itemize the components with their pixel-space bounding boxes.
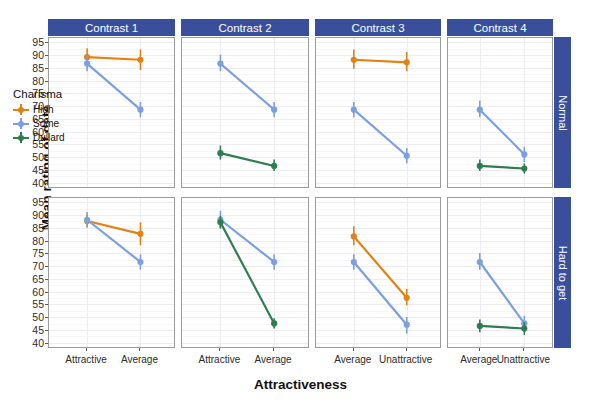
data-point xyxy=(351,57,357,63)
series-line xyxy=(354,262,407,325)
y-tick-label: 80 xyxy=(18,76,44,86)
series-layer xyxy=(316,38,441,188)
legend-items: HighSomeDullard xyxy=(13,103,65,144)
legend-key-icon xyxy=(13,117,29,130)
facet-panel xyxy=(48,197,175,348)
x-tick-mark xyxy=(523,348,524,351)
series-line xyxy=(87,220,140,262)
y-tick-label: 70 xyxy=(18,261,44,271)
x-tick-label: Average xyxy=(228,354,318,365)
panel-plot-area xyxy=(182,198,308,347)
y-tick-label: 75 xyxy=(18,248,44,258)
legend-key-icon xyxy=(13,103,29,116)
x-tick-label: Average xyxy=(94,354,184,365)
data-point xyxy=(351,259,357,265)
panel-plot-area xyxy=(316,198,440,347)
data-point xyxy=(404,322,410,328)
series-line xyxy=(480,110,525,155)
y-tick-label: 60 xyxy=(18,287,44,297)
data-point xyxy=(477,323,483,329)
facet-strip-row: Normal xyxy=(554,37,571,188)
legend-label: Some xyxy=(33,118,59,129)
data-point xyxy=(137,107,143,113)
series-line xyxy=(87,64,140,110)
facet-panel xyxy=(447,37,553,188)
data-point xyxy=(137,231,143,237)
data-point xyxy=(271,259,277,265)
legend-item: High xyxy=(13,103,65,116)
facet-panel xyxy=(315,197,441,348)
series-line xyxy=(220,222,274,323)
x-tick-label: Unattractive xyxy=(478,354,568,365)
facet-strip-row: Hard to get xyxy=(554,197,571,348)
data-point xyxy=(84,60,90,66)
series-line xyxy=(87,57,140,60)
facet-strip-column: Contrast 3 xyxy=(315,19,441,36)
data-point xyxy=(217,219,223,225)
series-layer xyxy=(448,38,553,188)
legend-key-icon xyxy=(13,131,29,144)
data-point xyxy=(477,163,483,169)
data-point xyxy=(271,163,277,169)
panel-plot-area xyxy=(182,38,308,187)
data-point xyxy=(477,107,483,113)
series-line xyxy=(354,236,407,297)
legend-item: Some xyxy=(13,117,65,130)
series-line xyxy=(220,64,274,110)
data-point xyxy=(404,153,410,159)
data-point xyxy=(521,151,527,157)
data-point xyxy=(137,57,143,63)
panel-plot-area xyxy=(49,38,174,187)
x-tick-mark xyxy=(219,348,220,351)
y-tick-label: 45 xyxy=(18,165,44,175)
y-tick-label: 95 xyxy=(18,197,44,207)
series-layer xyxy=(182,198,309,348)
y-tick-label: 65 xyxy=(18,274,44,284)
y-tick-label: 90 xyxy=(18,50,44,60)
facet-chart: Mean rating of date Attractiveness 40404… xyxy=(0,0,593,405)
y-tick-label: 85 xyxy=(18,223,44,233)
y-tick-label: 40 xyxy=(18,178,44,188)
y-tick-label: 80 xyxy=(18,236,44,246)
x-axis-title: Attractiveness xyxy=(48,377,553,392)
series-line xyxy=(220,220,274,262)
data-point xyxy=(217,150,223,156)
series-line xyxy=(480,326,525,329)
x-tick-mark xyxy=(479,348,480,351)
legend-item: Dullard xyxy=(13,131,65,144)
facet-panel xyxy=(447,197,553,348)
facet-panel xyxy=(48,37,175,188)
series-layer xyxy=(448,198,553,348)
data-point xyxy=(404,295,410,301)
y-tick-label: 90 xyxy=(18,210,44,220)
legend-title: Charisma xyxy=(13,88,65,100)
x-tick-mark xyxy=(139,348,140,351)
x-tick-mark xyxy=(273,348,274,351)
x-tick-mark xyxy=(353,348,354,351)
data-point xyxy=(84,217,90,223)
series-line xyxy=(480,166,525,169)
data-point xyxy=(477,259,483,265)
panel-plot-area xyxy=(316,38,440,187)
y-tick-label: 45 xyxy=(18,325,44,335)
series-line xyxy=(354,60,407,63)
facet-strip-column: Contrast 4 xyxy=(447,19,553,36)
panel-plot-area xyxy=(448,38,552,187)
y-tick-label: 85 xyxy=(18,63,44,73)
legend-label: High xyxy=(33,104,54,115)
series-layer xyxy=(49,38,175,188)
y-tick-label: 50 xyxy=(18,152,44,162)
y-tick-label: 50 xyxy=(18,312,44,322)
panel-plot-area xyxy=(49,198,174,347)
series-line xyxy=(354,110,407,156)
series-layer xyxy=(49,198,175,348)
data-point xyxy=(404,59,410,65)
legend-label: Dullard xyxy=(33,132,65,143)
data-point xyxy=(521,165,527,171)
data-point xyxy=(217,60,223,66)
data-point xyxy=(271,320,277,326)
series-line xyxy=(220,153,274,166)
facet-strip-column: Contrast 2 xyxy=(181,19,309,36)
x-tick-mark xyxy=(406,348,407,351)
data-point xyxy=(521,325,527,331)
